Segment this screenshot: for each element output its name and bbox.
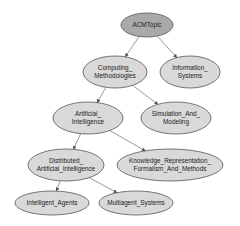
nodes-layer: ACMTopicComputing_MethodologiesInformati… [15, 13, 223, 215]
edge-acmtopic-to-information_systems [157, 36, 177, 58]
node-intelligent-agents: Intelligent_Agents [15, 191, 89, 215]
edge-arrow [73, 134, 80, 150]
node-label: ACMTopic [132, 21, 162, 29]
node-knowledge-representation: Knowledge_Representation_Formalism_And_M… [117, 149, 223, 181]
edge-arrow [89, 178, 117, 193]
node-label: Systems [178, 72, 203, 80]
edge-arrow [56, 181, 60, 191]
node-label: Knowledge_Representation_ [129, 157, 212, 165]
edge-artificial_intelligence-to-distributed_artificial_intelligence [73, 134, 80, 150]
node-label: Simulation_And_ [152, 110, 201, 118]
acm-topic-tree-diagram: ACMTopicComputing_MethodologiesInformati… [0, 0, 240, 226]
node-label: Artificial_ [75, 110, 101, 118]
node-label: Information_ [172, 64, 208, 72]
node-artificial-intelligence: Artificial_Intelligence [53, 102, 123, 134]
node-simulation-and-modeling: Simulation_And_Modeling [141, 102, 211, 134]
edge-arrow [157, 36, 177, 58]
node-label: Modeling [163, 118, 189, 126]
edge-arrow [125, 36, 139, 56]
node-label: Artificial_Intelligence [37, 165, 96, 173]
node-label: Intelligent_Agents [27, 199, 78, 207]
edge-computing_methodologies-to-simulation_and_modeling [133, 85, 158, 104]
node-multiagent-systems: Multiagent_Systems [99, 191, 173, 215]
node-information-systems: Information_Systems [160, 56, 220, 88]
node-label: Intelligence [72, 118, 105, 126]
node-label: Multiagent_Systems [107, 199, 165, 207]
node-label: Distributed_ [49, 157, 84, 165]
node-computing-methodologies: Computing_Methodologies [83, 56, 147, 88]
edge-arrow [110, 131, 145, 151]
node-label: Methodologies [94, 72, 136, 80]
edge-arrow [97, 87, 106, 102]
node-distributed-artificial-intelligence: Distributed_Artificial_Intelligence [28, 149, 104, 181]
node-acmtopic: ACMTopic [121, 13, 173, 37]
node-label: Computing_ [98, 64, 133, 72]
edge-distributed_artificial_intelligence-to-intelligent_agents [56, 181, 60, 191]
edge-arrow [133, 85, 158, 104]
edge-acmtopic-to-computing_methodologies [125, 36, 139, 56]
edge-artificial_intelligence-to-knowledge_representation [110, 131, 145, 151]
edge-distributed_artificial_intelligence-to-multiagent_systems [89, 178, 117, 193]
edge-computing_methodologies-to-artificial_intelligence [97, 87, 106, 102]
node-label: Formalism_And_Methods [134, 165, 207, 173]
